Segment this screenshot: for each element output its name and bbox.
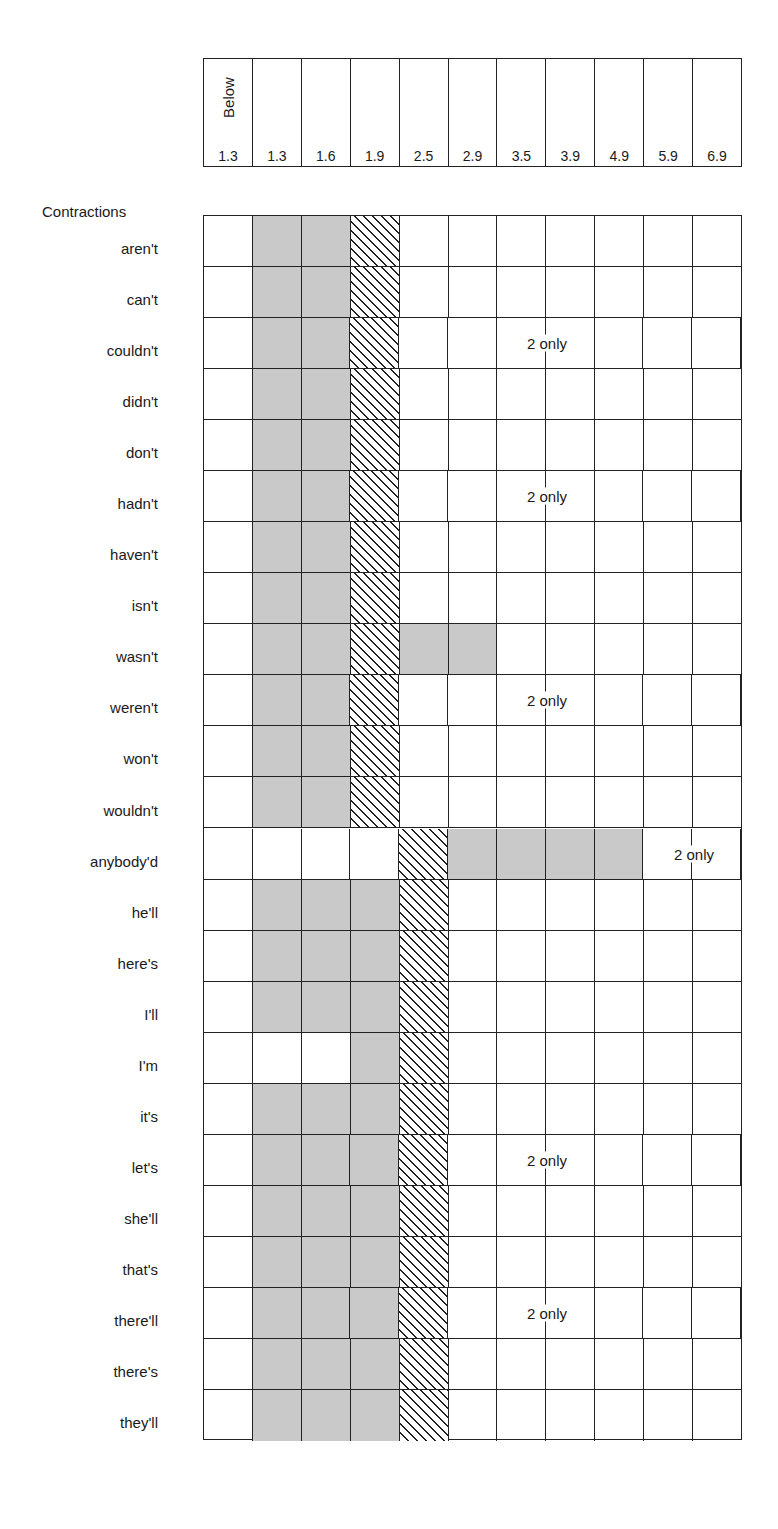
hatched-cell bbox=[399, 829, 448, 879]
empty-cell bbox=[449, 1033, 498, 1083]
shaded-cell bbox=[302, 522, 351, 572]
row-label: it's bbox=[140, 1108, 158, 1125]
empty-cell bbox=[204, 1084, 253, 1134]
hatched-cell bbox=[400, 880, 449, 930]
empty-cell bbox=[497, 573, 546, 623]
grid-row bbox=[204, 573, 741, 624]
hatched-cell bbox=[400, 982, 449, 1032]
empty-cell bbox=[449, 726, 498, 776]
empty-cell bbox=[546, 880, 595, 930]
empty-cell bbox=[693, 216, 741, 266]
hatched-cell bbox=[351, 420, 400, 470]
grid-row bbox=[204, 931, 741, 982]
row-label: don't bbox=[126, 444, 158, 461]
empty-cell bbox=[449, 216, 498, 266]
empty-cell bbox=[204, 522, 253, 572]
grid-row bbox=[204, 522, 741, 573]
hatched-cell bbox=[351, 522, 400, 572]
empty-cell bbox=[497, 522, 546, 572]
empty-cell bbox=[449, 522, 498, 572]
empty-cell bbox=[449, 1084, 498, 1134]
empty-cell bbox=[204, 1135, 253, 1185]
shaded-cell bbox=[302, 1084, 351, 1134]
shaded-cell bbox=[302, 471, 351, 521]
row-label: weren't bbox=[110, 699, 158, 716]
shaded-cell bbox=[253, 1237, 302, 1287]
column-tick-label: 3.5 bbox=[497, 148, 545, 164]
empty-cell bbox=[693, 420, 741, 470]
empty-cell bbox=[400, 369, 449, 419]
empty-cell bbox=[595, 777, 644, 827]
hatched-cell bbox=[351, 369, 400, 419]
empty-cell bbox=[693, 522, 741, 572]
shaded-cell bbox=[253, 880, 302, 930]
empty-cell bbox=[693, 777, 741, 827]
two-only-annotation: 2 only bbox=[524, 1151, 570, 1168]
empty-cell bbox=[449, 931, 498, 981]
empty-cell bbox=[204, 1339, 253, 1389]
two-only-annotation: 2 only bbox=[671, 845, 717, 862]
shaded-cell bbox=[351, 982, 400, 1032]
shaded-cell bbox=[351, 1339, 400, 1389]
row-label: hadn't bbox=[118, 495, 158, 512]
row-label: won't bbox=[123, 750, 158, 767]
empty-cell bbox=[546, 1339, 595, 1389]
grid-row: 2 only bbox=[204, 1288, 741, 1339]
empty-cell bbox=[449, 1390, 498, 1441]
empty-cell bbox=[497, 267, 546, 317]
empty-cell bbox=[693, 1084, 741, 1134]
empty-cell bbox=[693, 369, 741, 419]
empty-cell bbox=[546, 420, 595, 470]
header-column: 1.3 bbox=[253, 59, 302, 166]
empty-cell bbox=[693, 1237, 741, 1287]
hatched-cell bbox=[399, 1288, 448, 1338]
empty-cell bbox=[595, 267, 644, 317]
empty-cell bbox=[204, 1033, 253, 1083]
empty-cell bbox=[595, 1084, 644, 1134]
empty-cell bbox=[400, 573, 449, 623]
empty-cell bbox=[449, 420, 498, 470]
empty-cell bbox=[644, 1084, 693, 1134]
shaded-cell bbox=[302, 1186, 351, 1236]
shaded-cell bbox=[253, 1186, 302, 1236]
empty-cell bbox=[497, 1390, 546, 1441]
shaded-cell bbox=[253, 1288, 302, 1338]
empty-cell bbox=[546, 1186, 595, 1236]
shaded-cell bbox=[302, 982, 351, 1032]
empty-cell bbox=[448, 471, 497, 521]
empty-cell bbox=[350, 829, 399, 879]
empty-cell bbox=[399, 675, 448, 725]
hatched-cell bbox=[400, 1033, 449, 1083]
empty-cell bbox=[643, 675, 692, 725]
shaded-cell bbox=[595, 829, 644, 879]
shaded-cell bbox=[302, 931, 351, 981]
empty-cell bbox=[595, 1135, 644, 1185]
empty-cell bbox=[693, 1339, 741, 1389]
empty-cell bbox=[693, 1033, 741, 1083]
shaded-cell bbox=[449, 624, 498, 674]
empty-cell bbox=[595, 880, 644, 930]
grid-row: 2 only bbox=[204, 829, 741, 880]
shaded-cell bbox=[253, 471, 302, 521]
column-tick-label: 5.9 bbox=[644, 148, 692, 164]
empty-cell bbox=[595, 1186, 644, 1236]
empty-cell bbox=[204, 931, 253, 981]
empty-cell bbox=[546, 982, 595, 1032]
empty-cell bbox=[644, 573, 693, 623]
grid-row bbox=[204, 880, 741, 931]
hatched-cell bbox=[351, 777, 400, 827]
empty-cell bbox=[546, 931, 595, 981]
grid-row bbox=[204, 1390, 741, 1441]
empty-cell bbox=[644, 420, 693, 470]
grid-row: 2 only bbox=[204, 1135, 741, 1186]
shaded-cell bbox=[253, 675, 302, 725]
shaded-cell bbox=[253, 1390, 302, 1441]
grid-row bbox=[204, 420, 741, 471]
empty-cell bbox=[644, 982, 693, 1032]
two-only-annotation: 2 only bbox=[524, 692, 570, 709]
empty-cell bbox=[643, 471, 692, 521]
row-label: can't bbox=[127, 291, 158, 308]
row-label: haven't bbox=[110, 546, 158, 563]
empty-cell bbox=[595, 1339, 644, 1389]
empty-cell bbox=[204, 267, 253, 317]
